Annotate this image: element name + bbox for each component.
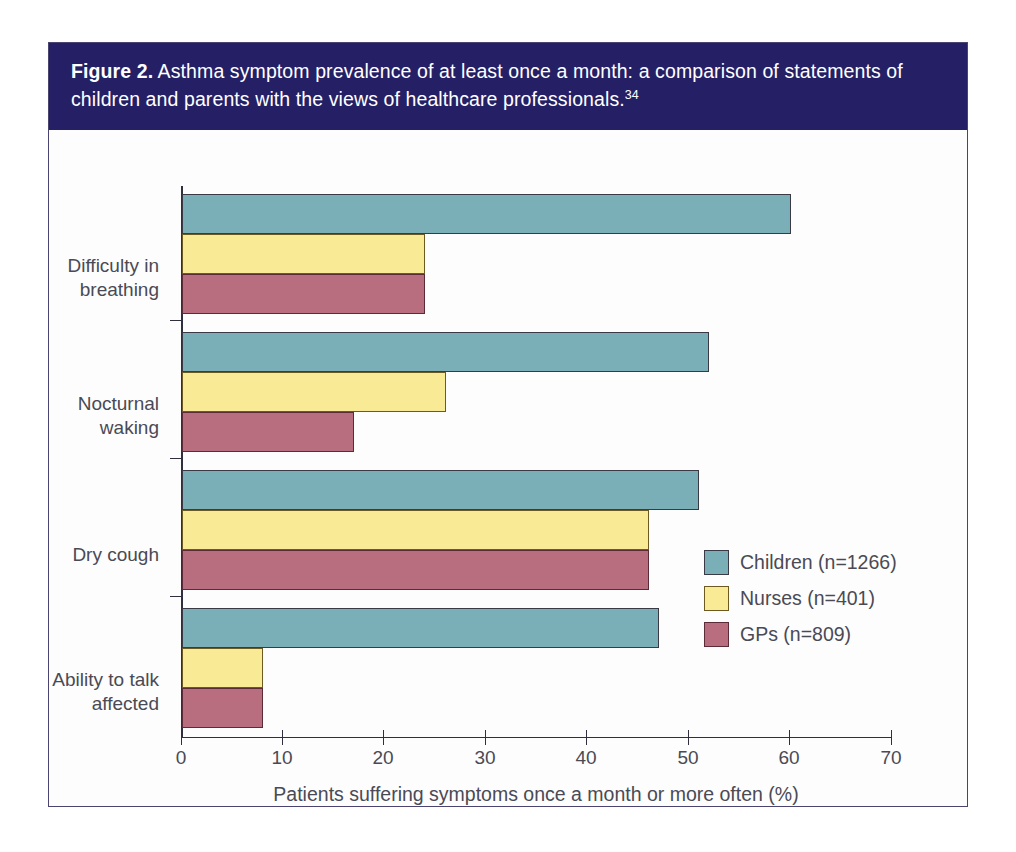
x-axis-tick: [383, 730, 384, 745]
y-axis-category-label-wrap: Ability to talk affected: [49, 668, 181, 717]
bar-children-difficulty-in-breathing: [182, 194, 791, 234]
bar-nurses-nocturnal-waking: [182, 372, 446, 412]
legend-label-nurses: Nurses (n=401): [740, 587, 875, 610]
legend-label-children: Children (n=1266): [740, 551, 897, 574]
x-axis-tick-label: 70: [880, 747, 901, 769]
x-axis-tick-label: 10: [271, 747, 292, 769]
figure-caption-banner: Figure 2. Asthma symptom prevalence of a…: [49, 43, 967, 130]
y-axis-tick: [170, 458, 182, 459]
y-axis-category-label-wrap: Difficulty in breathing: [49, 254, 181, 303]
bar-gps-dry-cough: [182, 550, 649, 590]
x-axis-tick-label: 40: [575, 747, 596, 769]
x-axis-tick-label: 60: [778, 747, 799, 769]
bar-children-nocturnal-waking: [182, 332, 709, 372]
bar-gps-ability-to-talk-affected: [182, 688, 263, 728]
x-axis-tick-label: 30: [474, 747, 495, 769]
bar-children-dry-cough: [182, 470, 699, 510]
x-axis-tick-label: 50: [677, 747, 698, 769]
x-axis-tick: [485, 730, 486, 745]
bar-gps-difficulty-in-breathing: [182, 274, 425, 314]
x-axis-line: [181, 737, 891, 739]
y-axis-category-label: Nocturnal waking: [49, 392, 173, 441]
chart-legend: Children (n=1266) Nurses (n=401) GPs (n=…: [704, 550, 897, 658]
legend-swatch-children-icon: [704, 550, 729, 575]
x-axis-tick: [586, 730, 587, 745]
x-axis-tick: [789, 730, 790, 745]
x-axis-tick: [282, 730, 283, 745]
bar-gps-nocturnal-waking: [182, 412, 354, 452]
bar-nurses-ability-to-talk-affected: [182, 648, 263, 688]
figure-reference-superscript: 34: [625, 88, 639, 102]
figure-caption-text: Asthma symptom prevalence of at least on…: [71, 60, 903, 110]
x-axis-tick: [181, 730, 182, 745]
chart-plot-area: 0 10 20 30 40 50 60 70 Difficulty in bre…: [49, 130, 967, 785]
y-axis-category-label: Ability to talk affected: [49, 668, 173, 717]
y-axis-category-label-wrap: Dry cough: [49, 543, 181, 567]
figure-container: Figure 2. Asthma symptom prevalence of a…: [48, 42, 968, 807]
legend-label-gps: GPs (n=809): [740, 623, 851, 646]
bar-nurses-dry-cough: [182, 510, 649, 550]
x-axis-tick-label: 0: [176, 747, 187, 769]
y-axis-tick: [170, 320, 182, 321]
legend-item-gps: GPs (n=809): [704, 622, 897, 647]
x-axis-tick: [891, 730, 892, 745]
bar-children-ability-to-talk-affected: [182, 608, 659, 648]
bar-nurses-difficulty-in-breathing: [182, 234, 425, 274]
y-axis-category-label: Dry cough: [49, 543, 173, 567]
x-axis-title: Patients suffering symptoms once a month…: [181, 783, 891, 806]
y-axis-category-label: Difficulty in breathing: [49, 254, 173, 303]
legend-item-children: Children (n=1266): [704, 550, 897, 575]
chart-canvas: 0 10 20 30 40 50 60 70 Difficulty in bre…: [49, 130, 966, 785]
y-axis-tick: [170, 596, 182, 597]
legend-swatch-gps-icon: [704, 622, 729, 647]
y-axis-category-label-wrap: Nocturnal waking: [49, 392, 181, 441]
figure-number: Figure 2.: [71, 60, 153, 82]
x-axis-tick-label: 20: [372, 747, 393, 769]
x-axis-tick: [688, 730, 689, 745]
legend-item-nurses: Nurses (n=401): [704, 586, 897, 611]
legend-swatch-nurses-icon: [704, 586, 729, 611]
